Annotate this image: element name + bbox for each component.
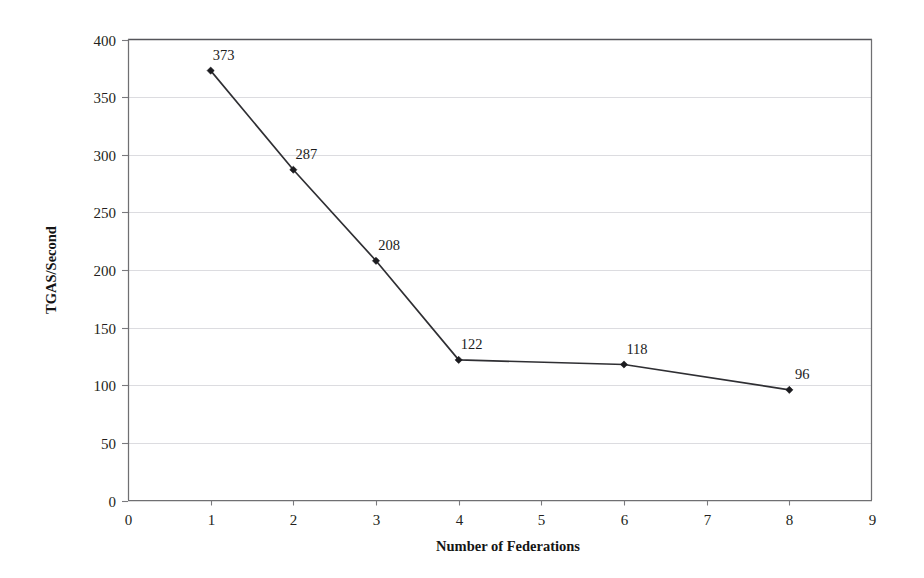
x-axis-title: Number of Federations [436, 538, 580, 554]
x-tick-label: 4 [456, 512, 464, 528]
y-tick-label: 150 [94, 321, 117, 337]
x-tick-label: 9 [869, 512, 877, 528]
y-tick-label: 200 [94, 263, 117, 279]
data-point-label: 122 [461, 336, 483, 352]
y-axis-title: TGAS/Second [43, 226, 59, 314]
x-tick-label: 1 [208, 512, 216, 528]
data-point-label: 208 [378, 237, 400, 253]
y-tick-label: 400 [94, 33, 117, 49]
x-tick-label: 7 [704, 512, 712, 528]
x-tick-label: 2 [290, 512, 298, 528]
y-tick-label: 300 [94, 148, 117, 164]
y-tick-label: 250 [94, 205, 117, 221]
chart-background [0, 0, 924, 578]
data-point-label: 118 [626, 341, 647, 357]
y-tick-label: 50 [101, 436, 116, 452]
x-tick-label: 8 [786, 512, 794, 528]
data-point-label: 287 [295, 146, 317, 162]
x-tick-label: 3 [373, 512, 381, 528]
y-tick-label: 0 [109, 494, 117, 510]
data-point-label: 373 [213, 47, 235, 63]
x-tick-label: 0 [125, 512, 133, 528]
x-tick-label: 6 [621, 512, 629, 528]
y-tick-label: 100 [94, 378, 117, 394]
chart-container: 050100150200250300350400 0123456789 3732… [0, 0, 924, 578]
line-chart: 050100150200250300350400 0123456789 3732… [0, 0, 924, 578]
y-tick-label: 350 [94, 90, 117, 106]
x-tick-label: 5 [538, 512, 546, 528]
data-point-label: 96 [795, 366, 810, 382]
